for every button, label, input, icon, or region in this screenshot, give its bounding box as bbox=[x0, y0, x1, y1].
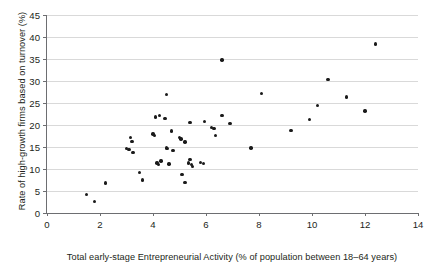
data-point bbox=[104, 181, 107, 184]
data-point bbox=[163, 117, 166, 120]
plot-area: 05101520253035404502468101214 bbox=[46, 15, 418, 214]
data-point bbox=[153, 134, 156, 137]
data-point bbox=[260, 92, 263, 95]
data-point bbox=[127, 148, 130, 151]
data-point bbox=[203, 120, 206, 123]
scatter-chart-figure: Rate of high-growth firms based on turno… bbox=[0, 0, 434, 275]
x-axis-tick-mark bbox=[418, 213, 419, 216]
y-axis-tick-mark bbox=[43, 169, 46, 170]
data-point bbox=[138, 171, 141, 174]
y-axis-tick-label: 15 bbox=[29, 142, 40, 153]
y-axis-tick-mark bbox=[43, 81, 46, 82]
gridline-horizontal bbox=[47, 81, 418, 82]
data-point bbox=[166, 147, 169, 150]
x-axis-tick-label: 0 bbox=[44, 219, 49, 230]
data-point bbox=[180, 173, 183, 176]
x-axis-tick-mark bbox=[312, 213, 313, 216]
y-axis-title: Rate of high-growth firms based on turno… bbox=[14, 0, 30, 226]
gridline-horizontal bbox=[47, 191, 418, 192]
data-point bbox=[228, 122, 231, 125]
y-axis-tick-label: 45 bbox=[29, 10, 40, 21]
y-axis-tick-label: 30 bbox=[29, 76, 40, 87]
data-point bbox=[183, 140, 186, 143]
data-point bbox=[165, 93, 168, 96]
gridline-horizontal bbox=[47, 103, 418, 104]
data-point bbox=[289, 129, 292, 132]
data-point bbox=[308, 118, 311, 121]
y-axis-tick-mark bbox=[43, 147, 46, 148]
x-axis-tick-label: 14 bbox=[413, 219, 424, 230]
data-point bbox=[131, 151, 134, 154]
data-point bbox=[93, 200, 96, 203]
data-point bbox=[129, 136, 132, 139]
data-point bbox=[212, 127, 215, 130]
gridline-horizontal bbox=[47, 37, 418, 38]
y-axis-tick-label: 25 bbox=[29, 98, 40, 109]
data-point bbox=[85, 193, 88, 196]
data-point bbox=[179, 137, 182, 140]
data-point bbox=[183, 181, 186, 184]
data-point bbox=[188, 121, 191, 124]
data-point bbox=[220, 114, 223, 117]
data-point bbox=[249, 146, 252, 149]
y-axis-tick-mark bbox=[43, 125, 46, 126]
y-axis-tick-label: 35 bbox=[29, 54, 40, 65]
x-axis-tick-mark bbox=[153, 213, 154, 216]
data-point bbox=[191, 165, 194, 168]
gridline-horizontal bbox=[47, 169, 418, 170]
x-axis-tick-label: 6 bbox=[203, 219, 208, 230]
data-point bbox=[170, 129, 173, 132]
y-axis-tick-mark bbox=[43, 213, 46, 214]
data-point bbox=[316, 104, 319, 107]
x-axis-tick-label: 4 bbox=[150, 219, 155, 230]
data-point bbox=[374, 42, 377, 45]
x-axis-title: Total early-stage Entrepreneurial Activi… bbox=[46, 252, 418, 262]
y-axis-tick-label: 5 bbox=[35, 186, 40, 197]
data-point bbox=[363, 109, 366, 112]
gridline-horizontal bbox=[47, 59, 418, 60]
x-axis-tick-mark bbox=[206, 213, 207, 216]
x-axis-tick-label: 2 bbox=[97, 219, 102, 230]
data-point bbox=[130, 140, 133, 143]
y-axis-tick-label: 20 bbox=[29, 120, 40, 131]
y-axis-tick-mark bbox=[43, 191, 46, 192]
y-axis-tick-label: 40 bbox=[29, 32, 40, 43]
y-axis-tick-label: 10 bbox=[29, 164, 40, 175]
x-axis-tick-mark bbox=[259, 213, 260, 216]
x-axis-tick-mark bbox=[365, 213, 366, 216]
y-axis-tick-mark bbox=[43, 37, 46, 38]
data-point bbox=[154, 115, 157, 118]
y-axis-tick-mark bbox=[43, 59, 46, 60]
gridline-horizontal bbox=[47, 125, 418, 126]
data-point bbox=[188, 158, 191, 161]
y-axis-tick-mark bbox=[43, 103, 46, 104]
x-axis-tick-mark bbox=[100, 213, 101, 216]
x-axis-tick-label: 8 bbox=[256, 219, 261, 230]
data-point bbox=[159, 159, 162, 162]
data-point bbox=[345, 95, 348, 98]
data-point bbox=[326, 78, 329, 81]
gridline-horizontal bbox=[47, 15, 418, 16]
y-axis-tick-label: 0 bbox=[35, 208, 40, 219]
data-point bbox=[202, 162, 205, 165]
x-axis-tick-label: 12 bbox=[360, 219, 371, 230]
data-point bbox=[214, 134, 217, 137]
data-point bbox=[157, 163, 160, 166]
x-axis-tick-label: 10 bbox=[307, 219, 318, 230]
y-axis-tick-mark bbox=[43, 15, 46, 16]
data-point bbox=[141, 178, 144, 181]
data-point bbox=[167, 162, 170, 165]
data-point bbox=[158, 114, 161, 117]
gridline-horizontal bbox=[47, 147, 418, 148]
data-point bbox=[220, 58, 223, 61]
data-point bbox=[171, 149, 174, 152]
x-axis-tick-mark bbox=[47, 213, 48, 216]
